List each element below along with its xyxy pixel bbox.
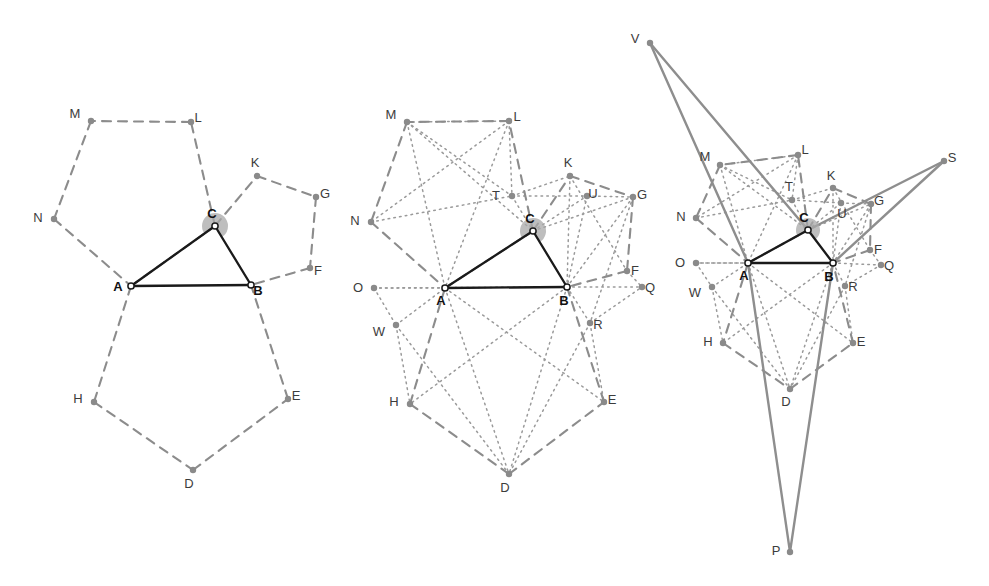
vertex-label-B: B bbox=[559, 293, 568, 308]
vertex-R bbox=[842, 283, 848, 289]
vertex-F bbox=[307, 265, 313, 271]
vertex-label-M: M bbox=[70, 106, 81, 121]
pentagon-edges bbox=[696, 155, 871, 389]
vertex-label-B: B bbox=[824, 269, 833, 284]
vertex-T bbox=[789, 197, 795, 203]
diagonal-line bbox=[712, 287, 723, 343]
vertex-label-T: T bbox=[785, 179, 793, 194]
diagonal-line bbox=[590, 197, 633, 323]
vertex-label-E: E bbox=[857, 334, 866, 349]
vertex-label-U: U bbox=[837, 206, 846, 221]
vertex-label-C: C bbox=[207, 206, 217, 221]
vertex-label-H: H bbox=[703, 334, 712, 349]
vertex-A bbox=[128, 283, 134, 289]
pentagon-edge bbox=[567, 287, 604, 402]
diagonal-line bbox=[720, 165, 808, 230]
vertex-H bbox=[91, 399, 97, 405]
vertex-label-A: A bbox=[739, 268, 749, 283]
diagonal-line bbox=[371, 121, 509, 222]
pentagon-edge bbox=[371, 222, 445, 288]
vertex-S bbox=[941, 158, 947, 164]
vertex-D bbox=[190, 467, 196, 473]
diagonal-line bbox=[748, 263, 853, 343]
vertex-label-V: V bbox=[631, 31, 640, 46]
diagonal-line bbox=[445, 121, 509, 288]
vertex-L bbox=[188, 119, 194, 125]
triangle-edges bbox=[131, 226, 251, 286]
vertex-A bbox=[442, 285, 448, 291]
diagonal-line bbox=[407, 122, 533, 231]
vertex-label-E: E bbox=[292, 388, 301, 403]
vertex-G bbox=[313, 194, 319, 200]
vertex-label-N: N bbox=[676, 209, 685, 224]
vertex-F bbox=[624, 268, 630, 274]
vertex-C bbox=[805, 227, 811, 233]
pentagon-edge bbox=[720, 155, 798, 165]
vertex-label-U: U bbox=[588, 186, 597, 201]
pentagon-edge bbox=[627, 197, 633, 271]
diagonal-line bbox=[407, 122, 512, 196]
vertex-label-P: P bbox=[772, 543, 781, 558]
diagonal-line bbox=[567, 287, 590, 323]
vertex-V bbox=[647, 40, 653, 46]
diagonal-line bbox=[509, 287, 567, 474]
vertex-label-F: F bbox=[314, 263, 322, 278]
vertex-label-R: R bbox=[848, 279, 857, 294]
vertex-label-W: W bbox=[689, 285, 702, 300]
outer-napoleon-triangle: ABCDEFGHKLMNOPQRSTUVW bbox=[631, 31, 957, 558]
pentagon-edge bbox=[310, 197, 316, 268]
vertex-M bbox=[717, 162, 723, 168]
pentagon-edge bbox=[54, 219, 131, 286]
pentagon-edge bbox=[257, 176, 316, 197]
vertex-K bbox=[254, 173, 260, 179]
diagonal-line bbox=[720, 165, 748, 263]
pentagon-edge bbox=[790, 343, 853, 389]
vertex-label-N: N bbox=[350, 213, 359, 228]
diagonal-line bbox=[396, 325, 509, 474]
vertex-label-A: A bbox=[113, 279, 123, 294]
vertex-R bbox=[587, 320, 593, 326]
vertex-P bbox=[787, 549, 793, 555]
vertex-label-M: M bbox=[386, 107, 397, 122]
vertex-E bbox=[850, 340, 856, 346]
vertex-H bbox=[407, 401, 413, 407]
vertex-T bbox=[509, 193, 515, 199]
pentagon-edges bbox=[54, 121, 316, 470]
vertex-E bbox=[601, 399, 607, 405]
vertex-label-H: H bbox=[389, 394, 398, 409]
vertex-label-L: L bbox=[513, 109, 520, 124]
vertex-L bbox=[795, 152, 801, 158]
pentagon-edge bbox=[509, 402, 604, 474]
diagram-canvas: ABCDEFGHKLMNABCDEFGHKLMNOQRTUWABCDEFGHKL… bbox=[0, 0, 989, 586]
vertices: ABCDEFGHKLMN bbox=[33, 106, 330, 491]
vertex-label-F: F bbox=[631, 263, 639, 278]
outer-line bbox=[650, 43, 808, 230]
diagonal-line bbox=[371, 196, 512, 222]
vertex-label-E: E bbox=[608, 392, 617, 407]
triangle-edge bbox=[131, 226, 215, 286]
pentagon-edge bbox=[94, 286, 131, 402]
triangle-with-pentagons: ABCDEFGHKLMN bbox=[33, 106, 330, 491]
vertex-label-D: D bbox=[781, 394, 790, 409]
vertex-label-L: L bbox=[194, 110, 201, 125]
diagonal-line bbox=[445, 288, 604, 402]
triangle-edge bbox=[533, 231, 567, 287]
vertex-O bbox=[371, 285, 377, 291]
diagonal-line bbox=[410, 287, 567, 404]
vertex-label-W: W bbox=[373, 324, 386, 339]
vertex-B bbox=[564, 284, 570, 290]
vertex-N bbox=[693, 215, 699, 221]
diagonal-line bbox=[407, 122, 445, 288]
vertex-N bbox=[368, 219, 374, 225]
vertex-label-G: G bbox=[874, 193, 884, 208]
vertex-W bbox=[393, 322, 399, 328]
vertex-F bbox=[867, 247, 873, 253]
vertex-label-D: D bbox=[184, 476, 193, 491]
vertex-G bbox=[630, 194, 636, 200]
vertex-D bbox=[506, 471, 512, 477]
vertex-label-L: L bbox=[801, 142, 808, 157]
pentagon-edge bbox=[54, 121, 91, 219]
vertex-label-Q: Q bbox=[645, 280, 655, 295]
vertex-label-C: C bbox=[525, 211, 535, 226]
triangle-edge bbox=[748, 230, 808, 263]
